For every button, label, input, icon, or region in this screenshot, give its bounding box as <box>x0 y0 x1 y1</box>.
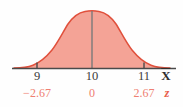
x-tick-label-11: 11 <box>138 70 150 83</box>
x-tick-label-10: 10 <box>86 70 99 83</box>
x-bar-axis-symbol: X <box>161 68 170 82</box>
x-tick-label-9: 9 <box>34 70 40 83</box>
z-tick-label-negative: −2.67 <box>23 87 51 99</box>
x-bar-axis-symbol-letter: X <box>161 68 170 82</box>
normal-distribution-figure: 9 10 11 X −2.67 0 2.67 z <box>0 0 183 107</box>
z-axis-symbol: z <box>165 87 170 100</box>
z-tick-label-positive: 2.67 <box>134 87 155 99</box>
z-tick-label-zero: 0 <box>89 87 95 99</box>
